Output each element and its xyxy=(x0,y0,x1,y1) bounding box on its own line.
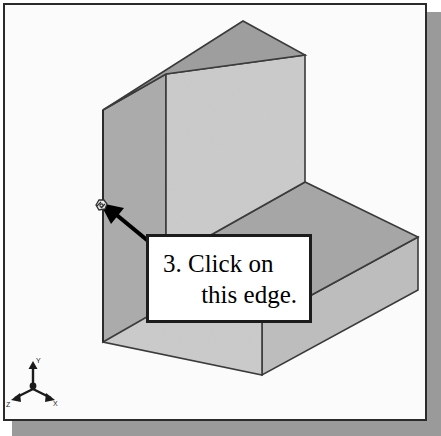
model-canvas[interactable]: Y Z X xyxy=(0,0,441,436)
orientation-triad: Y Z X xyxy=(6,357,58,408)
instruction-callout: 3. Click on this edge. xyxy=(146,234,312,323)
cad-tutorial-figure: Y Z X 3. Click on this edge. xyxy=(0,0,441,436)
triad-z-label: Z xyxy=(6,401,11,408)
callout-line-1: 3. Click on xyxy=(159,248,273,279)
triad-y-label: Y xyxy=(36,357,41,364)
triad-x-label: X xyxy=(53,400,58,407)
select-edge-cursor-icon xyxy=(96,200,107,210)
callout-line-2: this edge. xyxy=(201,279,297,310)
